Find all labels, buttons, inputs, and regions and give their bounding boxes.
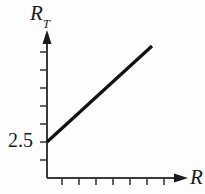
y-axis-label-subscript: T [43, 16, 50, 31]
x-axis-label: R [190, 167, 203, 188]
y-axis-arrowhead [43, 30, 52, 44]
y-axis-label: RT [30, 3, 50, 27]
y-axis-ticks [40, 52, 47, 160]
x-axis-arrowhead [174, 174, 188, 183]
plot-canvas [0, 0, 205, 194]
y-intercept-tick-label: 2.5 [8, 129, 33, 152]
y-axis-label-base: R [30, 1, 43, 25]
data-line-series-0 [47, 46, 152, 142]
plot-figure: RT R 2.5 [0, 0, 205, 194]
x-axis-ticks [62, 178, 164, 185]
